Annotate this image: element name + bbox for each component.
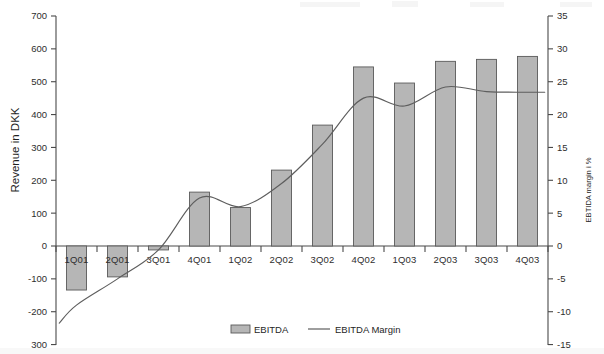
- category-label: 1Q02: [228, 254, 252, 265]
- category-label: 2Q02: [269, 254, 293, 265]
- left-axis-tick-label: 0: [42, 240, 47, 251]
- legend-label-ebitda: EBITDA: [254, 324, 289, 335]
- bar-1q02: [231, 208, 251, 246]
- right-axis-tick-label: 5: [557, 208, 562, 219]
- left-axis-tick-label: 500: [31, 76, 47, 87]
- category-label: 1Q03: [392, 254, 416, 265]
- ebitda-margin-line: [59, 86, 544, 323]
- bar-4q02: [354, 67, 374, 246]
- left-axis-tick-label: 100: [31, 208, 47, 219]
- category-label: 2Q01: [105, 254, 129, 265]
- right-axis-tick-label: -15: [557, 339, 571, 350]
- bar-4q03: [518, 56, 538, 246]
- chart-legend: EBITDAEBITDA Margin: [231, 324, 400, 335]
- chart-canvas: 7006005004003002001000-100-2003003530252…: [0, 0, 604, 354]
- left-axis-title: Revenue in DKK: [9, 107, 21, 192]
- right-axis-tick-label: 30: [557, 43, 568, 54]
- category-label: 3Q02: [310, 254, 334, 265]
- right-axis-tick-label: 10: [557, 175, 568, 186]
- bar-4q01: [190, 192, 210, 246]
- category-label: 3Q03: [474, 254, 498, 265]
- bar-1q01: [67, 246, 87, 290]
- bar-1q03: [395, 83, 415, 246]
- legend-swatch-ebitda: [231, 325, 250, 333]
- right-axis-tick-label: 35: [557, 10, 568, 21]
- category-label: 1Q01: [64, 254, 88, 265]
- category-label: 4Q02: [351, 254, 375, 265]
- left-axis-tick-label: 700: [31, 10, 47, 21]
- right-axis-title: EBTIDA margin i %: [584, 157, 593, 222]
- left-axis-tick-label: -100: [28, 273, 47, 284]
- left-axis-tick-label: -200: [28, 306, 47, 317]
- ebitda-chart: 7006005004003002001000-100-2003003530252…: [0, 0, 604, 354]
- right-axis-tick-label: 25: [557, 76, 568, 87]
- right-axis-tick-label: 20: [557, 109, 568, 120]
- right-axis-tick-label: -10: [557, 306, 571, 317]
- category-label: 3Q01: [146, 254, 170, 265]
- right-axis-tick-label: -5: [557, 273, 565, 284]
- category-label: 2Q03: [433, 254, 457, 265]
- category-label: 4Q03: [515, 254, 539, 265]
- bar-2q02: [272, 170, 292, 246]
- left-axis-tick-label: 300: [31, 339, 47, 350]
- bar-3q02: [313, 125, 333, 246]
- bar-3q03: [477, 59, 497, 246]
- legend-label-ebitda-margin: EBITDA Margin: [335, 324, 400, 335]
- left-axis-tick-label: 300: [31, 142, 47, 153]
- left-axis-tick-label: 400: [31, 109, 47, 120]
- left-axis-tick-label: 200: [31, 175, 47, 186]
- category-label: 4Q01: [187, 254, 211, 265]
- left-axis-tick-label: 600: [31, 43, 47, 54]
- right-axis-tick-label: 15: [557, 142, 568, 153]
- right-axis-tick-label: 0: [557, 240, 562, 251]
